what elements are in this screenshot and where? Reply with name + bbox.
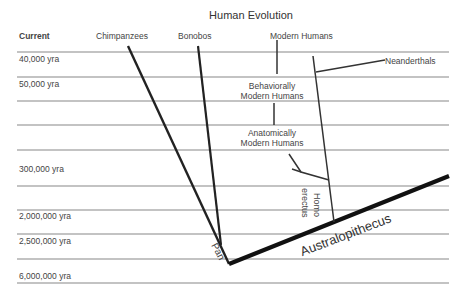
time-label-40000: 40,000 yra bbox=[19, 54, 59, 64]
time-label-2000000: 2,000,000 yra bbox=[19, 211, 71, 221]
chimpanzee-branch bbox=[128, 46, 229, 264]
time-label-6000000: 6,000,000 yra bbox=[19, 271, 71, 281]
time-label-current: Current bbox=[19, 31, 50, 41]
time-label-300000: 300,000 yra bbox=[19, 164, 64, 174]
taxon-behaviorally-modern-humans: Behaviorally Modern Humans bbox=[232, 81, 312, 101]
taxon-modern-humans: Modern Humans bbox=[270, 31, 333, 41]
neanderthal-branch bbox=[316, 60, 385, 72]
evolution-tree-graphic bbox=[0, 0, 462, 302]
taxon-chimpanzees: Chimpanzees bbox=[96, 31, 148, 41]
time-label-2500000: 2,500,000 yra bbox=[19, 236, 71, 246]
australopithecus-branch bbox=[229, 176, 449, 264]
taxon-neanderthals: Neanderthals bbox=[385, 56, 436, 66]
bonobo-branch bbox=[198, 46, 221, 245]
taxon-erectus: erectus bbox=[300, 188, 310, 218]
taxon-anatomically-modern-humans: Anatomically Modern Humans bbox=[232, 128, 312, 148]
time-label-50000: 50,000 yra bbox=[19, 79, 59, 89]
taxon-bonobos: Bonobos bbox=[178, 31, 212, 41]
taxon-homo: Homo bbox=[312, 193, 322, 217]
archaic-branch bbox=[289, 154, 329, 180]
